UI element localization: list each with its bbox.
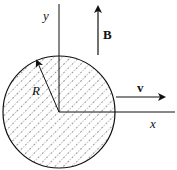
radius-label: R bbox=[32, 84, 40, 97]
diagram-canvas bbox=[0, 0, 177, 170]
y-axis-label: y bbox=[43, 9, 49, 22]
velocity-label: v bbox=[137, 81, 144, 94]
physics-diagram: y x B v R bbox=[0, 0, 177, 170]
b-field-label: B bbox=[103, 28, 112, 41]
x-axis-label: x bbox=[150, 117, 156, 130]
